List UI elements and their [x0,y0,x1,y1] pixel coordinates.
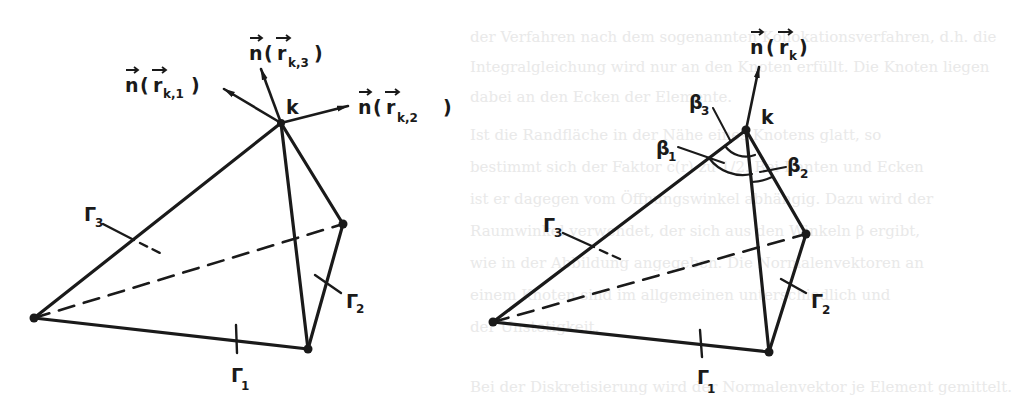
paren-close: ) [314,42,323,64]
hidden-edge [34,224,343,318]
normal-r-text: r [277,42,287,64]
vertex-k [742,126,751,135]
vertex-k-label: k [761,106,774,128]
vertex-bottom [765,348,774,357]
edge-left-bottom [493,322,769,352]
label-normal-k3: n ( r k,3 ) [249,35,323,70]
normal-n-text: n [125,74,139,96]
edge-bottom-right [308,224,343,349]
vector-arrow-icon [152,67,166,73]
right-labels: n ( r k ) k β 3 β 1 β 2 Γ 3 Γ 2 Γ 1 [543,29,830,396]
vector-arrow-icon [126,67,138,73]
vertex-k-label: k [286,96,299,118]
label-normal-k2: n ( r k,2 ) [358,89,452,125]
normal-n-text: n [249,42,263,64]
paren-open: ( [140,74,149,96]
normal-arrow-k [746,67,759,130]
label-normal-k: n ( r k ) [750,29,808,63]
angle-beta2-label: β [787,154,801,176]
normal-sub-text: k,3 [288,56,309,70]
normal-sub-text: k,2 [397,111,418,125]
vertex-left [489,318,498,327]
normal-sub-text: k [789,49,798,63]
vertex-right [802,230,811,239]
paren-close: ) [443,96,452,118]
paren-close: ) [191,74,200,96]
normal-r-text: r [153,74,163,96]
vector-arrow-icon [385,89,399,95]
angle-beta1-sub: 1 [668,150,676,164]
face-gamma2-sub: 2 [822,303,830,317]
right-panel [493,67,806,357]
vector-arrow-icon [276,35,290,41]
face-gamma3-sub: 3 [95,216,103,230]
paren-open: ( [766,36,775,58]
vertex-bottom [304,345,313,354]
left-panel [34,69,348,353]
angle-beta3-sub: 3 [701,104,709,118]
vertex-left [30,314,39,323]
vector-arrow-icon [359,89,371,95]
normal-arrow-k1 [224,89,281,123]
vertex-right [339,220,348,229]
paren-open: ( [264,42,273,64]
edge-k-bottom [281,123,308,349]
edge-bottom-right [769,234,806,352]
edge-left-bottom [34,318,308,349]
normal-n-text: n [358,96,372,118]
vector-arrow-icon [778,29,792,35]
gamma1-leader [700,330,702,357]
beta1-leader [678,147,724,163]
normal-r-text: r [386,96,396,118]
face-gamma2-sub: 2 [356,302,364,316]
label-normal-k1: n ( r k,1 ) [125,67,200,101]
gamma3-leader-hidden [140,243,164,255]
gamma3-leader-hidden [600,250,620,259]
beta3-leader [713,108,731,142]
angle-arc-beta3 [725,146,755,157]
angle-beta2-sub: 2 [800,167,808,181]
vertex-k [277,119,285,127]
vector-arrow-icon [751,29,763,35]
vector-arrow-icon [250,35,262,41]
hidden-edge [493,234,806,322]
normal-arrow-k3 [261,69,281,123]
gamma2-leader [781,279,806,293]
beta2-leader [760,167,786,172]
paren-open: ( [373,96,382,118]
normal-r-text: r [779,36,789,58]
angle-arc-beta2 [752,177,772,182]
face-gamma1-sub: 1 [707,382,715,396]
normal-n-text: n [750,36,764,58]
face-gamma3-sub: 3 [554,226,562,240]
face-gamma1-sub: 1 [241,379,249,393]
gamma3-leader [563,233,594,247]
paren-close: ) [799,36,808,58]
edge-k-left [34,123,281,318]
gamma1-leader [236,325,237,353]
edge-k-left [493,130,746,322]
gamma3-leader [103,224,134,240]
normal-sub-text: k,1 [163,87,184,101]
